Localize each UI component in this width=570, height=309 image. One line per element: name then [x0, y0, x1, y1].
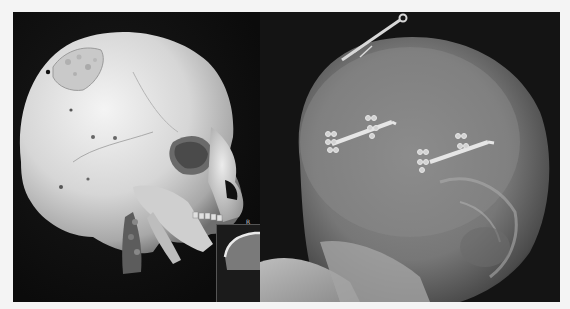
xray-panel — [260, 12, 560, 302]
skull-xray — [260, 12, 560, 302]
ct-slice-inset — [216, 224, 261, 302]
inset-orientation-label: R — [246, 219, 250, 225]
ct-slice — [217, 225, 261, 302]
figure: R — [13, 12, 560, 302]
